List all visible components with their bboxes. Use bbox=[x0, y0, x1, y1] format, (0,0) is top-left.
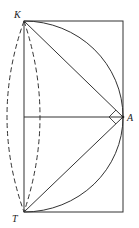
segment-KA bbox=[24, 21, 123, 117]
geometry-diagram: K A T bbox=[0, 0, 139, 228]
label-T: T bbox=[12, 213, 19, 224]
label-K: K bbox=[13, 9, 22, 20]
dashed-arc-outer bbox=[7, 21, 24, 212]
point-A bbox=[122, 116, 125, 119]
label-A: A bbox=[126, 112, 134, 123]
segment-TA bbox=[24, 117, 123, 212]
